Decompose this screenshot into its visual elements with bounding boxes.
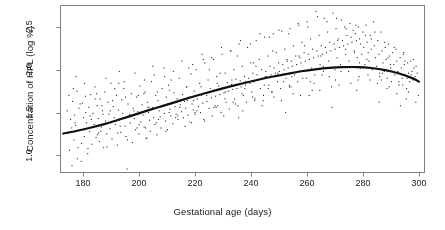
x-tick-label: 280: [343, 178, 383, 188]
y-tick-label: 1.0: [24, 140, 35, 170]
x-axis-title: Gestational age (days): [0, 206, 445, 217]
y-tick-label: 1.5: [24, 98, 35, 128]
chart-figure: Gestational age (days) Concentration of …: [0, 0, 445, 230]
x-tick-label: 240: [231, 178, 271, 188]
x-tick-label: 260: [287, 178, 327, 188]
y-tick-label: 2.0: [24, 55, 35, 85]
x-tick-label: 220: [175, 178, 215, 188]
scatter-plot-canvas: [0, 0, 445, 230]
x-tick-label: 200: [119, 178, 159, 188]
x-tick-label: 300: [399, 178, 439, 188]
x-tick-label: 180: [63, 178, 103, 188]
y-tick-label: 2.5: [24, 12, 35, 42]
